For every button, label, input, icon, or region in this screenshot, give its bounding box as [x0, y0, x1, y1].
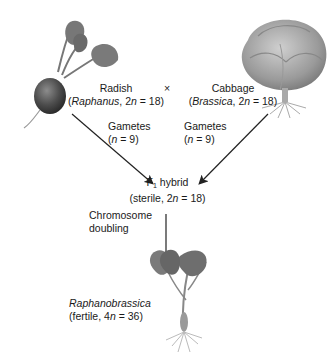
f1-suffix: hybrid — [160, 176, 189, 188]
f1-chromosome-count: = 18 — [181, 192, 202, 204]
cross-symbol: × — [164, 82, 170, 95]
gametes-right-label: Gametes (n = 9) — [184, 120, 227, 146]
gametes-right-var: n — [188, 133, 194, 145]
cabbage-label: Cabbage (Brassica, 2n = 18) — [180, 82, 286, 108]
f1-subscript: 1 — [153, 182, 157, 189]
raphanobrassica-illustration — [150, 250, 207, 352]
radish-illustration — [24, 21, 118, 128]
result-name: Raphanobrassica — [69, 297, 151, 309]
f1-hybrid-label: F1 hybrid (sterile, 2n = 18) — [110, 176, 225, 205]
cabbage-ploidy-var: n — [244, 95, 250, 107]
gametes-left-var: n — [112, 133, 118, 145]
radish-genus: Raphanus — [71, 95, 119, 107]
cabbage-chromosome-count: = 18 — [253, 95, 274, 107]
result-label: Raphanobrassica (fertile, 4n = 36) — [69, 297, 151, 323]
gametes-left-count: = 9 — [120, 133, 135, 145]
f1-ploidy-var: n — [173, 192, 179, 204]
result-ploidy-var: n — [110, 310, 116, 322]
radish-label: Radish (Raphanus, 2n = 18) — [56, 82, 176, 108]
cabbage-genus: Brassica — [192, 95, 232, 107]
gametes-right-text: Gametes — [184, 120, 227, 132]
radish-ploidy-var: n — [131, 95, 137, 107]
f1-status: sterile — [133, 192, 161, 204]
process-line1: Chromosome — [89, 209, 152, 221]
gametes-left-text: Gametes — [108, 120, 151, 132]
process-line2: doubling — [89, 222, 129, 234]
result-status: fertile — [73, 310, 99, 322]
result-chromosome-count: = 36 — [119, 310, 140, 322]
process-label: Chromosome doubling — [89, 209, 152, 235]
gametes-left-label: Gametes (n = 9) — [108, 120, 151, 146]
cabbage-common-name: Cabbage — [212, 82, 255, 94]
radish-common-name: Radish — [100, 82, 133, 94]
gametes-right-count: = 9 — [196, 133, 211, 145]
radish-chromosome-count: = 18 — [140, 95, 161, 107]
